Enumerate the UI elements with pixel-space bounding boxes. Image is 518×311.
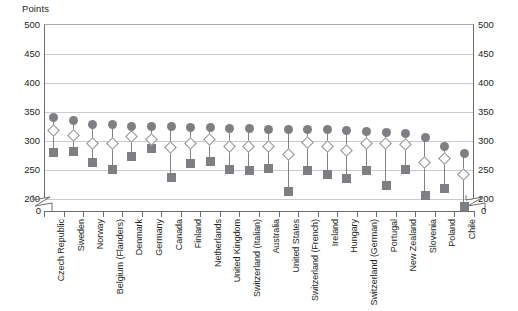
marker-low-square [245,166,254,175]
y-axis-tick-label-right: 450 [478,54,494,64]
y-axis-tick-value: 250 [24,165,40,175]
marker-median-diamond [379,137,392,150]
x-axis-tick [44,211,45,217]
marker-high-circle [186,123,195,132]
marker-median-diamond [262,140,275,153]
x-axis-tick [122,211,123,217]
marker-median-diamond [243,140,256,153]
marker-median-diamond [106,137,119,150]
x-axis-category-label: Netherlands [214,219,223,267]
marker-low-square [225,165,234,174]
marker-low-square [284,187,293,196]
marker-low-square [421,191,430,200]
chart-container: Points 500500450450400400350350300300250… [0,0,518,311]
marker-low-square [167,173,176,182]
y-axis-tick-value: 500 [24,20,40,30]
x-axis-category-label: Sweden [77,219,86,251]
y-axis-tick-label-right: 350 [478,112,494,122]
marker-low-square [186,159,195,168]
y-axis-tick-value: 400 [24,78,40,88]
marker-high-circle [342,126,351,135]
marker-median-diamond [67,129,80,142]
y-axis-tick-value: 300 [24,136,40,146]
marker-median-diamond [223,140,236,153]
marker-low-square [401,165,410,174]
x-axis-tick [142,211,143,217]
marker-low-square [88,158,97,167]
y-axis-tick-label-left: 350 [24,112,40,122]
y-axis-zero-label-left: 0 [31,206,41,216]
marker-median-diamond [301,136,314,149]
x-axis-tick [435,211,436,217]
marker-high-circle [127,122,136,131]
x-axis-category-labels: Czech RepublicSwedenNorwayBelgium (Fland… [44,219,474,311]
y-axis-tick-label-right: 500 [478,25,494,35]
marker-low-square [342,174,351,183]
x-axis-category-label: United Kingdom [233,219,242,282]
x-axis-tick [279,211,280,217]
y-axis-tick-value: 500 [478,20,494,30]
x-axis-tick [396,211,397,217]
y-axis-unit-label: Points [22,3,49,14]
y-axis-tick-label-right: 250 [478,170,494,180]
x-axis-tick [220,211,221,217]
x-axis-category-label: Denmark [135,219,144,255]
x-axis-category-label: Switzerland (French) [311,219,320,301]
marker-high-circle [49,113,58,122]
y-axis-tick-label-right: 400 [478,83,494,93]
gridline [45,199,473,200]
y-axis-tick-value: 450 [478,49,494,59]
marker-low-square [49,148,58,157]
marker-low-square [264,164,273,173]
marker-median-diamond [86,137,99,150]
x-axis-category-label: Poland [448,219,457,247]
x-axis-tick [357,211,358,217]
marker-median-diamond [418,157,431,170]
x-axis-tick [318,211,319,217]
marker-median-diamond [438,152,451,165]
marker-median-diamond [47,124,60,137]
marker-low-square [440,184,449,193]
marker-high-circle [88,120,97,129]
x-axis-tick [83,211,84,217]
marker-low-square [127,152,136,161]
marker-median-diamond [399,139,412,152]
x-axis-tick [376,211,377,217]
y-axis-tick-label-left: 300 [24,141,40,151]
x-axis-tick [415,211,416,217]
y-axis-zero-label-right: 0 [481,206,495,216]
marker-high-circle [245,124,254,133]
y-axis-tick-label-left: 250 [24,170,40,180]
x-axis-category-label: Germany [155,219,164,256]
x-axis-category-label: Belgium (Flanders) [116,219,125,294]
marker-low-square [206,157,215,166]
x-axis-category-label: Switzerland (Italian) [253,219,262,297]
marker-median-diamond [458,168,471,181]
data-series-layer [44,24,474,198]
marker-high-circle [440,142,449,151]
y-axis-tick-value: 300 [478,136,494,146]
marker-high-circle [421,133,430,142]
marker-high-circle [69,116,78,125]
marker-high-circle [362,127,371,136]
x-axis-category-label: New Zealand [409,219,418,271]
x-axis-tick [259,211,260,217]
marker-high-circle [167,122,176,131]
marker-low-square [382,181,391,190]
marker-high-circle [108,120,117,129]
marker-high-circle [401,129,410,138]
marker-low-square [69,147,78,156]
marker-low-square [362,166,371,175]
marker-high-circle [264,125,273,134]
y-axis-tick-label-right: 300 [478,141,494,151]
x-axis-tick [64,211,65,217]
x-axis-tick [474,211,475,217]
marker-median-diamond [125,130,138,143]
y-axis-tick-value: 350 [24,107,40,117]
marker-median-diamond [164,141,177,154]
x-axis-category-label: Finland [194,219,203,248]
marker-high-circle [460,149,469,158]
y-axis-tick-label-left: 400 [24,83,40,93]
marker-high-circle [382,128,391,137]
marker-median-diamond [203,133,216,146]
